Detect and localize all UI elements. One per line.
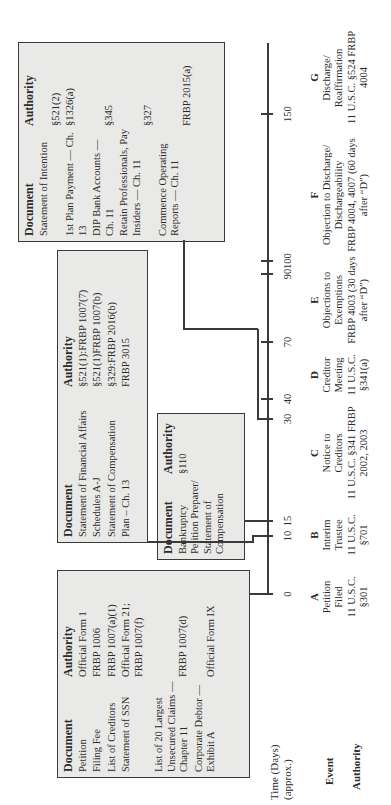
event-g: G Discharge/ Reaffirmation 11 U.S.C. §52… (308, 30, 371, 125)
doc-row: List of Creditors FRBP 1007(a)(1) (106, 576, 121, 772)
doc-row: Schedules A-J §521(1)FRBP 1007(b) (91, 256, 106, 537)
connector-petition (250, 594, 268, 596)
authority-header: Authority (62, 256, 77, 387)
tick-100 (261, 261, 273, 263)
doc-row: Statement of Intention §521(2) (38, 48, 65, 236)
connector-intention-c (183, 329, 258, 331)
schedules-box: Document Authority Statement of Financia… (57, 250, 148, 543)
tick-90 (261, 274, 273, 276)
event-b: B Interim Trustee 11 U.S.C. §701 (308, 505, 371, 565)
timeline-axis (267, 43, 269, 595)
statement-of-intention-box: Document Authority Statement of Intentio… (18, 42, 225, 242)
connector-schedules-h (252, 536, 254, 543)
connector-intention-e (257, 419, 268, 421)
connector-schedules-v (252, 536, 268, 538)
tick-label: 40 (282, 384, 293, 414)
doc-row: Retain Professionals, Pay Insiders — Ch.… (118, 48, 157, 236)
petition-documents-box: Document Authority Petition Official For… (57, 570, 250, 778)
authority-header: Authority (23, 48, 38, 126)
doc-row: Bankruptcy Petition Preparer/ Statement … (177, 419, 229, 554)
bankruptcy-timeline-diagram: Document Authority Petition Official For… (0, 0, 391, 805)
tick-40 (261, 399, 273, 401)
doc-row: Statement of Compensation §329:FRBP 2016… (106, 256, 121, 537)
tick-label: 15 (282, 506, 293, 536)
tick-150 (261, 114, 273, 116)
doc-row: List of 20 Largest Unsecured Claims — Ch… (147, 576, 193, 772)
event-d: D Creditor Meeting 11 U.S.C. §341(a) (308, 345, 371, 405)
doc-row: 1st Plan Payment — Ch. 13 §1326(a) (64, 48, 91, 236)
event-a: A Petition Filed 11 U.S.C. §301 (308, 567, 371, 627)
doc-row: Commence Operating Reports — Ch. 11 FRBP… (157, 48, 196, 236)
petition-preparer-box: Document Authority Bankruptcy Petition P… (157, 413, 245, 560)
event-f: F Objection to Discharge/ Dischargeabili… (308, 130, 371, 260)
time-axis-label: Time (Days) (approx.) (268, 730, 294, 800)
connector-preparer (245, 521, 268, 523)
doc-row: Statement of SSN Official Form 21; FRBP … (120, 576, 147, 772)
tick-label: 150 (282, 99, 293, 129)
connector-intention-d (257, 329, 259, 420)
doc-row: Corporate Debtor — Exhibit A Official Fo… (193, 576, 220, 772)
event-row-label: Event (323, 758, 335, 786)
connector-schedules (148, 542, 253, 544)
tick-70 (261, 342, 273, 344)
event-e: E Objections to Exemptions FRBP 4003 (30… (308, 250, 371, 350)
doc-row: Statement of Financial Affairs §521(1):F… (77, 256, 92, 537)
authority-header: Authority (62, 576, 77, 677)
tick-label: 0 (282, 579, 293, 609)
connector-intention-b (183, 240, 185, 330)
document-header: Document (62, 677, 77, 772)
authority-row-label: Authority (350, 744, 362, 790)
doc-row: Plan – Ch. 13 FRBP 3015 (120, 256, 135, 537)
document-header: Document (23, 126, 38, 236)
doc-row: DIP Bank Accounts — Ch. 11 §345 (91, 48, 118, 236)
event-c: C Notice to Creditors 11 U.S.C. §341 FRB… (308, 403, 371, 503)
document-header: Document (62, 387, 77, 537)
doc-row: Filing Fee FRBP 1006 (91, 576, 106, 772)
doc-row: Petition Official Form 1 (77, 576, 92, 772)
tick-label: 70 (282, 327, 293, 357)
authority-header: Authority (162, 419, 177, 474)
tick-label: 100 (282, 246, 293, 276)
